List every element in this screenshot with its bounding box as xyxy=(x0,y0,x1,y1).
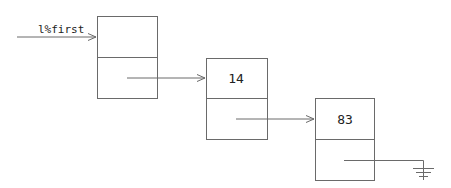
node-value: 83 xyxy=(337,112,353,127)
head-label: l%first xyxy=(38,23,84,36)
list-node-3: 83 xyxy=(316,99,375,181)
node-value: 14 xyxy=(228,71,244,86)
list-node-2: 14 xyxy=(207,59,268,140)
ground-icon xyxy=(413,168,434,180)
list-node-1 xyxy=(98,17,158,99)
linked-list-diagram: l%first 14 83 xyxy=(0,0,451,188)
head-pointer: l%first xyxy=(17,23,96,41)
